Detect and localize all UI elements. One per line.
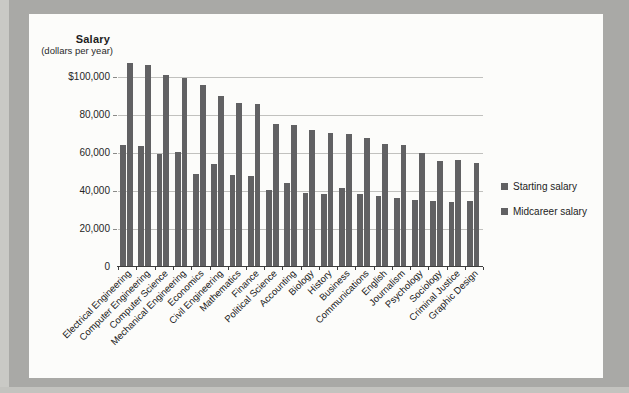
- bar-midcareer-salary: [474, 163, 480, 266]
- x-axis-tick: [447, 267, 448, 270]
- x-axis-tick: [483, 267, 484, 270]
- y-axis-tick: [113, 191, 117, 192]
- starting-salary-label: Starting salary: [513, 181, 577, 192]
- midcareer-salary-label: Midcareer salary: [513, 206, 587, 217]
- bar-midcareer-salary: [236, 103, 242, 265]
- x-axis-tick: [355, 267, 356, 270]
- bar-midcareer-salary: [328, 133, 334, 265]
- x-axis-tick: [319, 267, 320, 270]
- y-axis-label: 0: [29, 261, 110, 272]
- bar-starting-salary: [357, 194, 363, 265]
- chart-subtitle: (dollars per year): [29, 45, 113, 56]
- gridline: [118, 229, 483, 230]
- x-axis-tick: [428, 267, 429, 270]
- x-axis-tick: [118, 267, 119, 270]
- y-axis-tick: [113, 77, 117, 78]
- x-axis-tick: [264, 267, 265, 270]
- plot-area: [118, 62, 483, 267]
- y-axis-tick: [113, 115, 117, 116]
- legend-item-midcareer-salary: Midcareer salary: [501, 206, 587, 218]
- x-axis-tick: [337, 267, 338, 270]
- bar-starting-salary: [449, 202, 455, 266]
- gridline: [118, 153, 483, 154]
- bar-starting-salary: [284, 183, 290, 266]
- page-edge-bottom: [0, 387, 629, 393]
- bar-midcareer-salary: [218, 96, 224, 265]
- bar-starting-salary: [211, 164, 217, 266]
- x-axis-tick: [136, 267, 137, 270]
- bar-starting-salary: [376, 196, 382, 265]
- bar-midcareer-salary: [382, 144, 388, 266]
- bar-starting-salary: [248, 176, 254, 265]
- y-axis-tick: [113, 229, 117, 230]
- bar-starting-salary: [321, 194, 327, 265]
- bar-midcareer-salary: [145, 65, 151, 265]
- bar-starting-salary: [157, 154, 163, 265]
- x-axis-tick: [173, 267, 174, 270]
- x-axis-tick: [246, 267, 247, 270]
- starting-salary-swatch: [501, 183, 508, 190]
- legend: Starting salary Midcareer salary: [501, 180, 587, 231]
- bar-midcareer-salary: [182, 78, 188, 265]
- gridline: [118, 77, 483, 78]
- chart-figure: Salary (dollars per year) Starting salar…: [29, 14, 603, 378]
- chart-title: Salary: [29, 33, 110, 45]
- bar-midcareer-salary: [127, 63, 133, 265]
- bar-starting-salary: [230, 175, 236, 265]
- bar-midcareer-salary: [364, 138, 370, 265]
- x-axis-tick: [301, 267, 302, 270]
- x-axis-tick: [191, 267, 192, 270]
- bar-midcareer-salary: [200, 85, 206, 266]
- x-axis-tick: [374, 267, 375, 270]
- legend-item-starting-salary: Starting salary: [501, 180, 587, 192]
- bar-midcareer-salary: [455, 160, 461, 266]
- bar-starting-salary: [120, 145, 126, 266]
- bar-midcareer-salary: [255, 104, 261, 266]
- x-axis-tick: [282, 267, 283, 270]
- y-axis-label: 60,000: [29, 147, 110, 158]
- bar-starting-salary: [266, 190, 272, 266]
- y-axis-label: 20,000: [29, 223, 110, 234]
- bar-starting-salary: [394, 198, 400, 266]
- bar-midcareer-salary: [273, 124, 279, 266]
- gridline: [118, 115, 483, 116]
- page-edge-left: [0, 0, 9, 393]
- y-axis-label: 40,000: [29, 185, 110, 196]
- bar-starting-salary: [339, 188, 345, 266]
- x-axis-tick: [155, 267, 156, 270]
- bar-midcareer-salary: [419, 153, 425, 265]
- x-axis-tick: [210, 267, 211, 270]
- x-axis-tick: [410, 267, 411, 270]
- y-axis-tick: [113, 153, 117, 154]
- bar-starting-salary: [138, 146, 144, 266]
- gridline: [118, 191, 483, 192]
- x-axis-tick: [392, 267, 393, 270]
- y-axis-label: $100,000: [29, 71, 110, 82]
- bar-starting-salary: [430, 201, 436, 266]
- bar-midcareer-salary: [291, 125, 297, 266]
- bar-midcareer-salary: [437, 161, 443, 266]
- bar-starting-salary: [303, 193, 309, 265]
- x-axis-tick: [465, 267, 466, 270]
- midcareer-salary-swatch: [501, 208, 508, 215]
- x-axis-tick: [228, 267, 229, 270]
- bar-midcareer-salary: [401, 145, 407, 266]
- y-axis-label: 80,000: [29, 109, 110, 120]
- bar-starting-salary: [467, 201, 473, 266]
- bar-starting-salary: [175, 152, 181, 266]
- bar-starting-salary: [193, 174, 199, 265]
- book-page-photo: Salary (dollars per year) Starting salar…: [0, 0, 629, 393]
- bar-midcareer-salary: [309, 130, 315, 266]
- bar-starting-salary: [412, 200, 418, 266]
- bar-midcareer-salary: [346, 134, 352, 265]
- bar-midcareer-salary: [163, 75, 169, 266]
